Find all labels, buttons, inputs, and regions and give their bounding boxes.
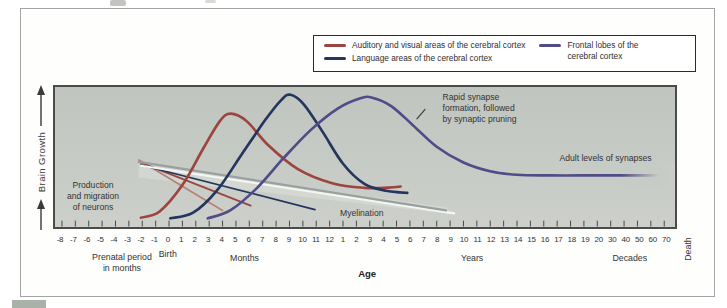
legend-swatch-icon [324,57,346,60]
annotation-adult-levels: Adult levels of synapses [559,153,651,164]
axis-sublabel-decades: Decades [612,253,647,264]
legend-item: Frontal lobes of the cerebral cortex [539,40,638,62]
figure-number-badge [12,300,46,308]
axis-sublabel-months: Months [230,253,259,264]
legend-column: Frontal lobes of the cerebral cortex [539,40,638,68]
legend-label: Frontal lobes of the cerebral cortex [567,40,638,62]
annotation-rapid-synapse: Rapid synapse formation, followed by syn… [443,91,517,124]
annotation-myelination: Myelination [340,207,383,218]
legend-swatch-icon [324,44,346,47]
tick-label: 70 [655,235,677,244]
annotation-pointer-line [417,109,426,119]
legend-swatch-icon [539,44,561,47]
up-arrow-icon [37,85,45,95]
up-arrow-icon [37,199,45,209]
y-axis-label: Brain Growth [36,132,47,192]
axis-sublabel-birth: Birth [159,249,177,260]
axis-sublabel-prenatal: Prenatal period in months [92,252,152,275]
legend-label: Language areas of the cerebral cortex [352,53,492,64]
legend-column: Auditory and visual areas of the cerebra… [324,40,525,68]
scan-artifact [110,0,126,6]
legend-item: Auditory and visual areas of the cerebra… [324,40,525,51]
axis-sublabel-death: Death [683,237,694,260]
figure: Brain Growth Auditory and visual areas o… [0,0,727,308]
legend-item: Language areas of the cerebral cortex [324,53,525,64]
axis-sublabel-years: Years [461,253,483,264]
scan-artifact [205,0,216,3]
legend: Auditory and visual areas of the cerebra… [313,35,696,72]
axis-sublabel-age: Age [358,268,376,280]
legend-label: Auditory and visual areas of the cerebra… [352,40,525,51]
annotation-production-migration: Production and migration of neurons [67,180,119,213]
